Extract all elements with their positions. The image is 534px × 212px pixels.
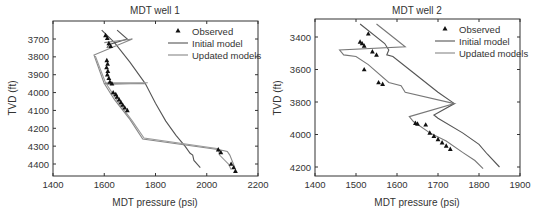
x-axis-label: MDT pressure (psi): [374, 197, 459, 208]
y-tick-label: 3800: [290, 97, 311, 108]
y-tick-label: 4200: [290, 162, 311, 173]
y-axis-label: TVD (ft): [272, 81, 283, 116]
observed-marker-icon: [370, 49, 375, 53]
observed-marker-icon: [362, 67, 367, 71]
observed-marker-icon: [376, 80, 381, 84]
y-tick-label: 3800: [28, 51, 49, 62]
observed-marker-icon: [380, 82, 385, 86]
x-tick-label: 1400: [304, 179, 325, 190]
legend-entry-label: Initial model: [459, 36, 510, 47]
observed-marker-icon: [427, 130, 432, 134]
y-tick-label: 4100: [28, 105, 49, 116]
x-tick-label: 1500: [345, 179, 366, 190]
x-tick-label: 1600: [94, 179, 115, 190]
y-tick-label: 4000: [28, 87, 49, 98]
legend-entry-label: Updated models: [459, 48, 528, 59]
chart-title: MDT well 2: [392, 5, 442, 16]
y-tick-label: 3400: [290, 32, 311, 43]
y-tick-label: 4000: [290, 129, 311, 140]
chart-panel-well-2: MDT well 2 MDT pressure (psi) TVD (ft) 1…: [272, 5, 531, 208]
legend-entry-label: Initial model: [192, 38, 243, 49]
observed-marker-icon: [440, 140, 445, 144]
x-tick-label: 1800: [145, 179, 166, 190]
chart-title: MDT well 1: [130, 5, 180, 16]
figure-canvas: MDT well 1 MDT pressure (psi) TVD (ft) 1…: [0, 0, 534, 212]
y-tick-label: 4200: [28, 123, 49, 134]
x-tick-label: 1400: [42, 179, 63, 190]
x-tick-label: 2200: [247, 179, 268, 190]
legend-entry-label: Observed: [459, 24, 500, 35]
x-tick-label: 1700: [427, 179, 448, 190]
observed-marker-icon: [444, 143, 449, 147]
x-tick-label: 1900: [509, 179, 530, 190]
legend: ObservedInitial modelUpdated models: [435, 24, 528, 59]
legend-entry-label: Updated models: [192, 50, 261, 61]
chart-panel-well-1: MDT well 1 MDT pressure (psi) TVD (ft) 1…: [7, 5, 269, 208]
y-tick-label: 4300: [28, 141, 49, 152]
y-tick-label: 3600: [290, 64, 311, 75]
x-tick-label: 1800: [468, 179, 489, 190]
figure: MDT well 1 MDT pressure (psi) TVD (ft) 1…: [0, 0, 534, 212]
x-tick-label: 2000: [196, 179, 217, 190]
x-tick-label: 1600: [386, 179, 407, 190]
legend: ObservedInitial modelUpdated models: [168, 26, 261, 61]
legend-triangle-icon: [176, 28, 181, 33]
x-axis-label: MDT pressure (psi): [112, 197, 197, 208]
y-tick-label: 4400: [28, 159, 49, 170]
observed-marker-icon: [104, 58, 109, 62]
y-axis-label: TVD (ft): [7, 81, 18, 116]
y-tick-label: 3900: [28, 69, 49, 80]
observed-marker-icon: [448, 147, 453, 151]
observed-marker-icon: [423, 122, 428, 126]
series-line: [95, 56, 231, 169]
legend-entry-label: Observed: [192, 26, 233, 37]
y-tick-label: 3700: [28, 34, 49, 45]
observed-marker-icon: [374, 52, 379, 56]
legend-triangle-icon: [443, 26, 448, 31]
